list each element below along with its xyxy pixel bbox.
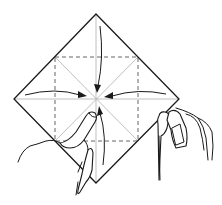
top-arrow-icon	[94, 26, 102, 93]
fold-arrows	[25, 26, 166, 165]
crease-lines	[14, 14, 179, 183]
left-hand-icon	[18, 112, 97, 195]
left-arrow-icon	[25, 91, 87, 98]
right-hand-icon	[158, 108, 213, 180]
origami-illustration	[0, 0, 222, 205]
bottom-arrow-icon	[97, 106, 104, 165]
right-arrow-icon	[104, 91, 166, 99]
origami-diagram	[0, 0, 222, 205]
